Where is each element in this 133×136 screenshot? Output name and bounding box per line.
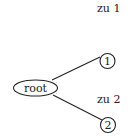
edge-label-zu-1: zu 1 xyxy=(97,2,120,15)
tree-diagram: root 1 2 zu 1 zu 2 xyxy=(0,0,133,136)
child-2-label: 2 xyxy=(105,119,112,132)
edge-root-to-1 xyxy=(52,57,100,80)
root-node: root xyxy=(14,80,58,96)
edge-root-to-2 xyxy=(53,95,102,120)
child-node-1: 1 xyxy=(100,54,115,69)
child-node-2: 2 xyxy=(101,118,116,133)
child-1-label: 1 xyxy=(104,55,111,68)
edge-label-zu-2: zu 2 xyxy=(97,93,120,106)
root-label: root xyxy=(24,82,48,95)
